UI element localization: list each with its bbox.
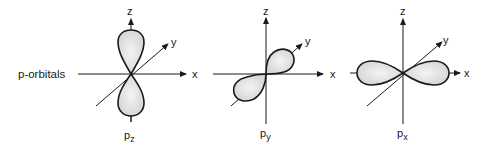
x-axis-label: x <box>192 68 198 80</box>
p-orbitals-label: p-orbitals <box>18 68 66 80</box>
pz-orbital: x y z pz <box>78 5 198 144</box>
py-upper-lobe <box>266 49 294 74</box>
y-axis-label: y <box>305 35 311 47</box>
px-right-lobe <box>403 61 449 85</box>
z-axis-label: z <box>400 5 406 17</box>
y-axis-label: y <box>171 36 177 48</box>
pz-label: pz <box>124 129 135 144</box>
x-axis-label: x <box>330 68 336 80</box>
px-orbital: x y z px <box>350 5 470 142</box>
px-label: px <box>397 127 408 142</box>
y-axis-label: y <box>443 34 449 46</box>
x-axis-label: x <box>464 67 470 79</box>
z-axis-label: z <box>127 5 133 17</box>
p-orbitals-diagram: p-orbitals x y z pz x y z py <box>0 0 489 149</box>
py-label: py <box>260 127 271 142</box>
z-axis-label: z <box>263 5 269 17</box>
py-orbital: x y z py <box>213 5 336 142</box>
pz-lower-lobe <box>118 74 144 116</box>
py-lower-lobe <box>234 74 266 101</box>
